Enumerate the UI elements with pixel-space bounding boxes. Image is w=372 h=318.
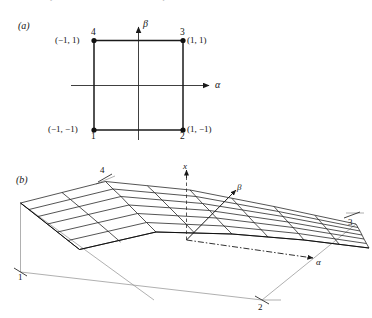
panel-b-x-axis-label: x bbox=[183, 162, 187, 171]
figure-artwork bbox=[0, 0, 372, 318]
panel-a-node-number-3: 3 bbox=[180, 28, 185, 38]
beta-direction-arrow bbox=[187, 190, 237, 240]
panel-b-tag: (b) bbox=[16, 175, 28, 185]
panel-b-node-number-3: 3 bbox=[348, 218, 353, 227]
panel-a-node-coords-2: (1, −1) bbox=[187, 125, 212, 134]
panel-a-beta-axis-label: β bbox=[143, 19, 148, 29]
panel-b-node-number-1: 1 bbox=[18, 273, 23, 282]
panel-a-tag: (a) bbox=[18, 21, 30, 31]
panel-a-node-coords-3: (1, 1) bbox=[187, 36, 207, 45]
panel-a-node-coords-4: (−1, 1) bbox=[55, 36, 80, 45]
panel-a-node-coords-1: (−1, −1) bbox=[48, 125, 78, 134]
panel-b-reference-frame bbox=[21, 176, 365, 300]
panel-b-node-number-4: 4 bbox=[100, 166, 105, 175]
node-dot-4 bbox=[91, 38, 96, 43]
panel-b-artwork bbox=[14, 170, 369, 304]
figure-root: shape functions for the four-node quadri… bbox=[0, 0, 372, 318]
panel-b-node-number-2: 2 bbox=[258, 303, 263, 312]
alpha-direction-arrow bbox=[187, 240, 314, 258]
node-dot-3 bbox=[180, 38, 185, 43]
panel-b-beta-axis-label: β bbox=[237, 183, 241, 192]
surface-silhouette bbox=[21, 203, 370, 250]
panel-a-node-number-2: 2 bbox=[180, 132, 185, 142]
panel-b-alpha-axis-label: α bbox=[316, 258, 321, 267]
shape-function-surface-mesh bbox=[21, 182, 370, 250]
panel-a-alpha-axis-label: α bbox=[215, 80, 220, 90]
panel-a-node-number-4: 4 bbox=[91, 28, 96, 38]
panel-a-node-number-1: 1 bbox=[91, 132, 96, 142]
